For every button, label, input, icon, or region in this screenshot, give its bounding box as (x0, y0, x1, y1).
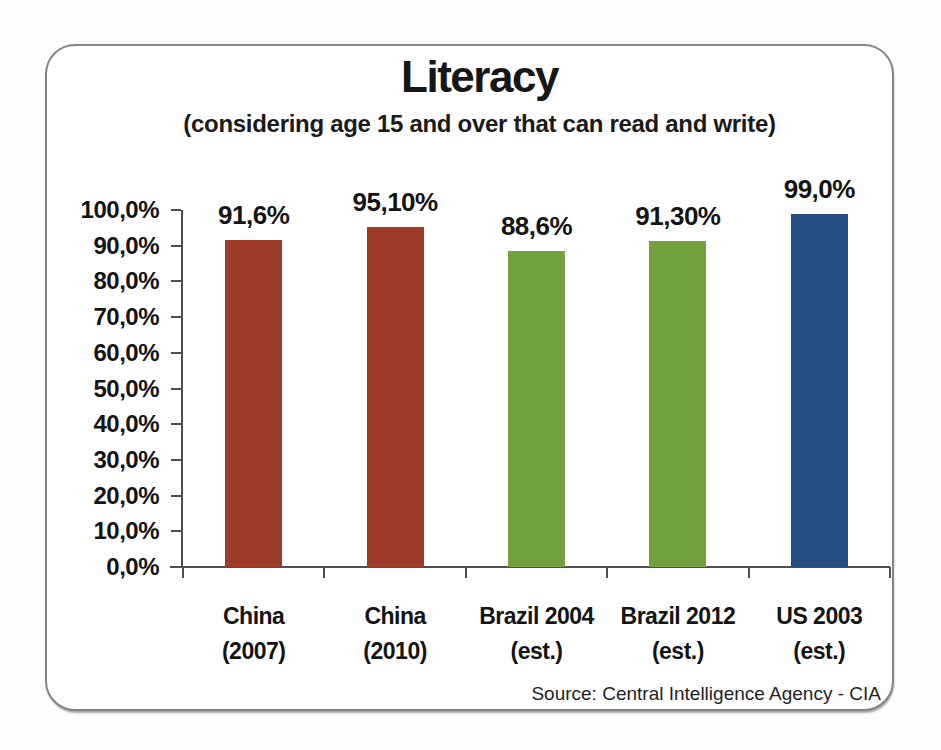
y-tick-label: 80,0% (47, 267, 159, 295)
x-category-label-line: (2010) (324, 634, 465, 669)
y-tick-label: 60,0% (47, 339, 159, 367)
y-axis-tick (171, 316, 181, 318)
x-category-label-line: China (183, 599, 324, 634)
category-tick (606, 567, 608, 578)
y-tick-label: 40,0% (47, 410, 159, 438)
x-category-label: US 2003(est.) (749, 599, 890, 669)
x-category-label-line: (est.) (607, 634, 748, 669)
source-caption: Source: Central Intelligence Agency - CI… (531, 683, 881, 705)
y-tick-label: 70,0% (47, 303, 159, 331)
y-axis-tick (171, 495, 181, 497)
bar-value-label: 99,0% (734, 174, 904, 204)
x-category-label-line: China (324, 599, 465, 634)
x-category-label: China(2010) (324, 599, 465, 669)
category-tick (182, 567, 184, 578)
bar (791, 214, 848, 567)
x-category-label-line: (est.) (749, 634, 890, 669)
y-tick-label: 100,0% (47, 196, 159, 224)
bar (367, 227, 424, 567)
bar (649, 241, 706, 567)
category-tick (889, 567, 891, 578)
x-category-label: Brazil 2012(est.) (607, 599, 748, 669)
y-tick-label: 0,0% (47, 553, 159, 581)
category-tick (465, 567, 467, 578)
y-axis-tick (171, 423, 181, 425)
x-category-label-line: US 2003 (749, 599, 890, 634)
x-category-label-line: Brazil 2004 (466, 599, 607, 634)
y-axis-tick (171, 566, 181, 568)
y-axis-tick (171, 280, 181, 282)
y-axis-tick (171, 388, 181, 390)
y-axis-tick (171, 530, 181, 532)
y-axis-line (181, 210, 183, 567)
bar-value-label: 91,30% (593, 201, 763, 231)
category-tick (323, 567, 325, 578)
x-category-label-line: (est.) (466, 634, 607, 669)
y-axis-tick (171, 352, 181, 354)
x-category-label-line: (2007) (183, 634, 324, 669)
bar (508, 251, 565, 567)
bar (225, 240, 282, 567)
y-tick-label: 30,0% (47, 446, 159, 474)
y-tick-label: 10,0% (47, 517, 159, 545)
plot-area: 0,0%10,0%20,0%30,0%40,0%50,0%60,0%70,0%8… (0, 0, 941, 750)
y-axis-tick (171, 245, 181, 247)
x-category-label: China(2007) (183, 599, 324, 669)
y-axis-tick (171, 459, 181, 461)
category-tick (748, 567, 750, 578)
y-tick-label: 50,0% (47, 375, 159, 403)
x-category-label: Brazil 2004(est.) (466, 599, 607, 669)
y-tick-label: 90,0% (47, 232, 159, 260)
x-category-label-line: Brazil 2012 (607, 599, 748, 634)
y-tick-label: 20,0% (47, 482, 159, 510)
